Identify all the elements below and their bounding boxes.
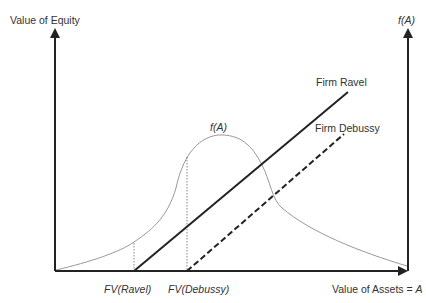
y-axis-left-arrow-icon (50, 28, 60, 38)
curve-label: f(A) (210, 121, 227, 133)
y-axis-right-arrow-icon (403, 28, 413, 38)
x-axis-arrow-icon (398, 266, 408, 276)
debussy-label: Firm Debussy (315, 122, 380, 134)
option-payoff-diagram: Value of Equity f(A) f(A) Firm Ravel Fir… (0, 0, 426, 303)
density-curve (56, 135, 407, 270)
x-axis-label: Value of Assets = A (332, 283, 423, 295)
debussy-payoff-line (187, 134, 344, 271)
fv-ravel-tick-label: FV(Ravel) (104, 283, 151, 295)
y-axis-left-label: Value of Equity (10, 14, 80, 26)
ravel-label: Firm Ravel (316, 76, 367, 88)
ravel-payoff-line (134, 92, 348, 271)
diagram-canvas (0, 0, 426, 303)
y-axis-right-label: f(A) (398, 14, 415, 26)
fv-debussy-tick-label: FV(Debussy) (168, 283, 229, 295)
